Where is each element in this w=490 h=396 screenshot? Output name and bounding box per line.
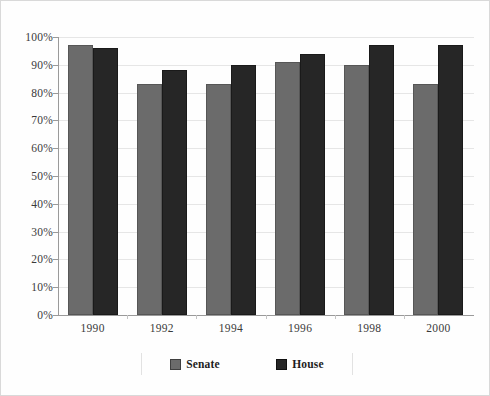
bar-group-1992	[137, 37, 187, 315]
y-tick-label: 100%	[25, 31, 53, 43]
bar-house-1996	[300, 54, 325, 315]
legend-swatch-house-icon	[276, 359, 287, 370]
bar-house-1994	[231, 65, 256, 315]
legend-label: House	[292, 358, 324, 370]
y-tick-label: 0%	[37, 309, 53, 321]
bar-group-2000	[413, 37, 463, 315]
y-tick-label: 60%	[31, 142, 53, 154]
legend-entry-house[interactable]: House	[276, 358, 324, 370]
x-tick-label-1996: 1996	[288, 322, 312, 334]
bar-senate-2000	[413, 84, 438, 315]
y-tick-label: 80%	[31, 87, 53, 99]
x-tick-label-1992: 1992	[150, 322, 174, 334]
bar-senate-1994	[206, 84, 231, 315]
x-tick-label-2000: 2000	[426, 322, 450, 334]
x-tick-mark	[404, 315, 405, 319]
x-tick-mark	[335, 315, 336, 319]
y-tick-label: 30%	[31, 226, 53, 238]
legend-label: Senate	[186, 358, 220, 370]
bar-house-1992	[162, 70, 187, 315]
bar-senate-1996	[275, 62, 300, 315]
y-tick-label: 70%	[31, 114, 53, 126]
y-tick-label: 50%	[31, 170, 53, 182]
x-tick-mark	[127, 315, 128, 319]
bar-group-1996	[275, 37, 325, 315]
y-tick-label: 10%	[31, 281, 53, 293]
bars-layer	[58, 37, 473, 315]
bar-senate-1998	[344, 65, 369, 315]
bar-group-1994	[206, 37, 256, 315]
x-axis: 199019921994199619982000	[58, 319, 473, 341]
y-axis: 0%10%20%30%40%50%60%70%80%90%100%	[1, 37, 53, 315]
bar-house-1998	[369, 45, 394, 315]
legend-swatch-senate-icon	[170, 359, 181, 370]
bar-group-1998	[344, 37, 394, 315]
bar-house-1990	[93, 48, 118, 315]
chart-legend: SenateHouse	[141, 353, 353, 375]
y-tick-label: 20%	[31, 253, 53, 265]
x-tick-label-1990: 1990	[80, 322, 104, 334]
chart-container: 0%10%20%30%40%50%60%70%80%90%100% 199019…	[0, 0, 490, 396]
bar-house-2000	[438, 45, 463, 315]
legend-entry-senate[interactable]: Senate	[170, 358, 220, 370]
y-tick-label: 40%	[31, 198, 53, 210]
bar-group-1990	[68, 37, 118, 315]
bar-senate-1992	[137, 84, 162, 315]
y-tick-label: 90%	[31, 59, 53, 71]
x-tick-mark	[196, 315, 197, 319]
bar-senate-1990	[68, 45, 93, 315]
x-tick-label-1994: 1994	[219, 322, 243, 334]
x-tick-label-1998: 1998	[357, 322, 381, 334]
x-tick-mark	[266, 315, 267, 319]
